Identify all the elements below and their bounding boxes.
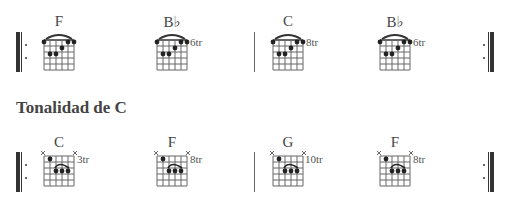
start-repeat-thin-bar <box>21 152 22 192</box>
repeat-dot <box>25 164 27 166</box>
repeat-dot <box>483 44 485 46</box>
start-repeat-thin-bar <box>21 32 22 72</box>
fret-label: 8tr <box>190 153 202 165</box>
chord-name: B♭ <box>375 13 415 31</box>
fret-label: 6tr <box>413 36 425 48</box>
fret-label: 8tr <box>306 36 318 48</box>
chord-diagram-f <box>380 152 410 190</box>
fret-label: 10tr <box>305 153 323 165</box>
chord-name: C <box>268 13 308 30</box>
repeat-dot <box>25 177 27 179</box>
repeat-dot <box>25 57 27 59</box>
fret-label: 6tr <box>190 36 202 48</box>
repeat-dot <box>483 57 485 59</box>
chord-diagram-f <box>157 152 187 190</box>
chord-diagram-f <box>44 36 74 72</box>
section-title: Tonalidad de C <box>16 98 127 118</box>
repeat-dot <box>483 164 485 166</box>
fret-label: 3tr <box>77 153 89 165</box>
chord-diagram-bb <box>380 36 410 72</box>
end-repeat-thick-bar <box>490 32 494 72</box>
end-repeat-thin-bar <box>488 32 489 72</box>
repeat-dot <box>483 177 485 179</box>
chord-name: F <box>39 13 79 30</box>
chord-diagram-bb <box>157 36 187 72</box>
chord-diagram-c <box>273 36 303 72</box>
barline <box>254 152 255 192</box>
chord-name: G <box>268 134 308 151</box>
chord-diagram-c <box>44 152 74 190</box>
fret-label: 8tr <box>413 153 425 165</box>
chord-name: B♭ <box>152 13 192 31</box>
chord-name: F <box>152 134 192 151</box>
start-repeat-thick-bar <box>16 32 20 72</box>
repeat-dot <box>25 44 27 46</box>
end-repeat-thin-bar <box>488 152 489 192</box>
chord-name: F <box>375 134 415 151</box>
start-repeat-thick-bar <box>16 152 20 192</box>
end-repeat-thick-bar <box>490 152 494 192</box>
chord-diagram-g <box>273 152 303 190</box>
barline <box>254 32 255 72</box>
chord-name: C <box>39 134 79 151</box>
